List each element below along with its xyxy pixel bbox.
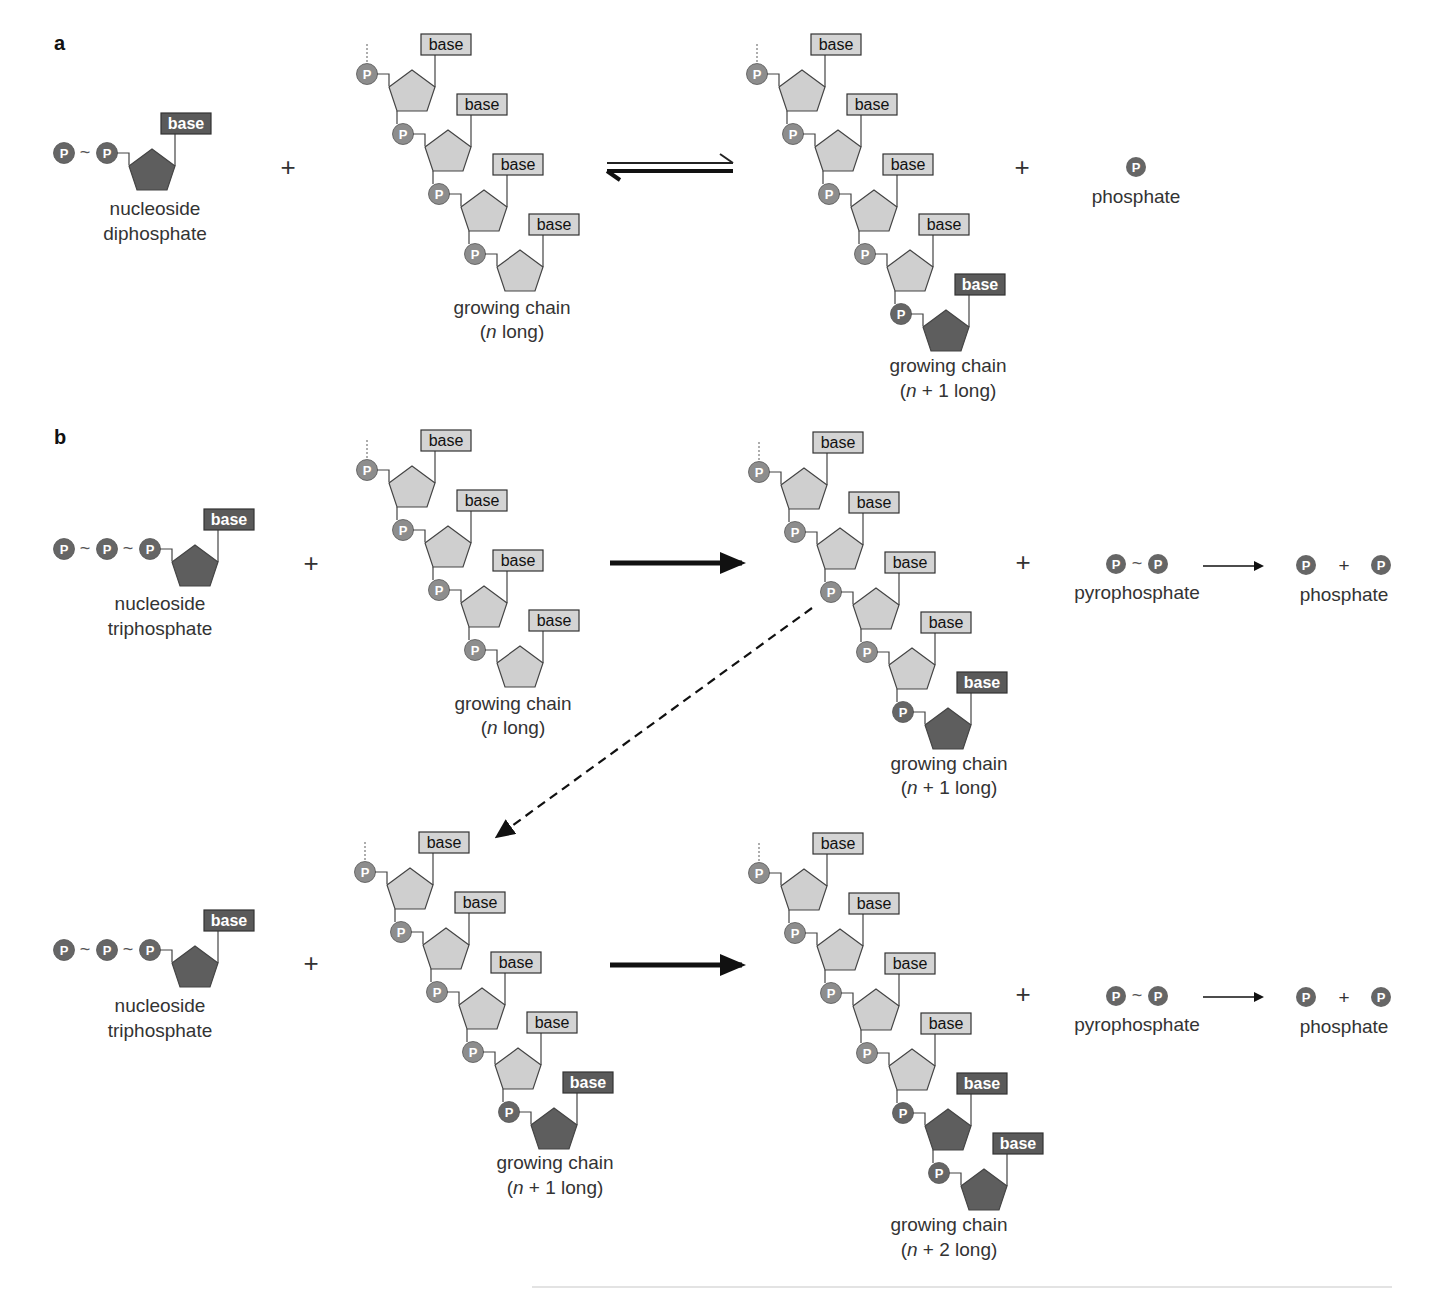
free-nucleotide-b2_ntp: P~P~Pbase	[54, 910, 255, 987]
svg-text:~: ~	[80, 142, 91, 162]
free-nucleotides: P~PbaseP~P~PbaseP~P~Pbase	[54, 113, 255, 987]
svg-text:P: P	[899, 705, 908, 720]
svg-text:P: P	[435, 187, 444, 202]
svg-text:P: P	[1112, 989, 1121, 1004]
svg-text:phosphate: phosphate	[1092, 186, 1181, 207]
svg-text:P: P	[789, 127, 798, 142]
svg-text:P: P	[60, 542, 69, 557]
base-new-label: base	[957, 672, 1007, 693]
svg-text:base: base	[501, 552, 536, 569]
svg-text:P: P	[863, 645, 872, 660]
base-new-label: base	[161, 113, 211, 134]
phosphate-icon: P	[140, 940, 161, 961]
phosphate-icon: P	[429, 580, 450, 601]
phosphate-icon: P	[54, 940, 75, 961]
svg-text:base: base	[819, 36, 854, 53]
sugar-icon	[853, 989, 899, 1030]
phosphate-icon: P	[391, 922, 412, 943]
base-label: base	[919, 214, 969, 235]
svg-text:P: P	[399, 523, 408, 538]
svg-text:pyrophosphate: pyrophosphate	[1074, 1014, 1200, 1035]
svg-text:P: P	[755, 465, 764, 480]
svg-text:P: P	[433, 985, 442, 1000]
svg-text:P: P	[146, 542, 155, 557]
sugar-icon	[851, 190, 897, 231]
svg-text:(n long): (n long)	[481, 717, 545, 738]
phosphate-icon: P	[929, 1163, 950, 1184]
svg-text:base: base	[429, 36, 464, 53]
svg-text:~: ~	[123, 538, 134, 558]
base-label: base	[811, 34, 861, 55]
phosphate-icon: P	[857, 642, 878, 663]
panel-label-b: b	[54, 426, 66, 448]
phosphate-icon: P	[357, 460, 378, 481]
svg-text:growing chain: growing chain	[889, 355, 1006, 376]
sugar-icon	[497, 250, 543, 291]
plus-sign: +	[280, 152, 295, 182]
svg-text:triphosphate: triphosphate	[108, 1020, 213, 1041]
phosphate-icon: P	[54, 539, 75, 560]
svg-text:phosphate: phosphate	[1300, 584, 1389, 605]
phosphate-icon: P	[749, 863, 770, 884]
sugar-icon	[461, 586, 507, 627]
phosphate-icon: P	[463, 1042, 484, 1063]
chain-n2-label: growing chain (n + 2 long)	[890, 1214, 1007, 1260]
phosphate-products: P + P phosphate	[1296, 555, 1391, 605]
sugar-icon	[389, 70, 435, 111]
svg-text:P: P	[827, 986, 836, 1001]
svg-text:base: base	[821, 835, 856, 852]
svg-text:base: base	[891, 156, 926, 173]
svg-text:P: P	[1154, 557, 1163, 572]
phosphate-icon: P	[54, 143, 75, 164]
svg-text:growing chain: growing chain	[890, 1214, 1007, 1235]
svg-text:P: P	[471, 643, 480, 658]
chain-n-label: growing chain (n long)	[453, 297, 570, 342]
base-label: base	[527, 1012, 577, 1033]
sugar-icon	[497, 646, 543, 687]
phosphate-icon: P	[893, 702, 914, 723]
svg-text:base: base	[1000, 1135, 1037, 1152]
phosphate-icon: P	[855, 244, 876, 265]
growing-chain-a_chain_n: PbasePbasePbasePbase	[357, 34, 580, 291]
svg-text:~: ~	[80, 939, 91, 959]
sugar-icon	[889, 648, 935, 689]
phosphate-icon: P	[355, 862, 376, 883]
phosphate-icon: P	[783, 124, 804, 145]
base-label: base	[849, 893, 899, 914]
sugar-icon	[495, 1048, 541, 1089]
svg-text:P: P	[1302, 558, 1311, 573]
svg-text:+: +	[1338, 987, 1349, 1008]
phosphate-icon: P	[819, 184, 840, 205]
svg-text:nucleoside: nucleoside	[115, 593, 206, 614]
phosphate-product: P phosphate	[1092, 157, 1181, 207]
svg-text:~: ~	[80, 538, 91, 558]
sugar-icon	[425, 526, 471, 567]
phosphate-icon: P	[393, 124, 414, 145]
base-label: base	[885, 552, 935, 573]
svg-text:base: base	[855, 96, 890, 113]
svg-text:base: base	[463, 894, 498, 911]
phosphate-products: P + P phosphate	[1296, 987, 1391, 1037]
svg-text:P: P	[469, 1045, 478, 1060]
svg-text:base: base	[821, 434, 856, 451]
base-label: base	[491, 952, 541, 973]
sugar-icon	[459, 988, 505, 1029]
sugar-dark-icon	[531, 1108, 577, 1149]
svg-text:P: P	[1132, 160, 1141, 175]
svg-text:+: +	[1338, 555, 1349, 576]
sugar-icon	[889, 1049, 935, 1090]
base-new-label: base	[204, 509, 254, 530]
svg-text:P: P	[505, 1105, 514, 1120]
phosphate-icon: P	[465, 640, 486, 661]
svg-text:nucleoside: nucleoside	[110, 198, 201, 219]
base-label: base	[813, 833, 863, 854]
base-new-label: base	[204, 910, 254, 931]
svg-text:base: base	[964, 1075, 1001, 1092]
phosphate-icon: P	[499, 1102, 520, 1123]
phosphate-icon: P	[97, 940, 118, 961]
growing-chain-a_chain_n1: PbasePbasePbasePbasePbase	[747, 34, 1006, 351]
chain-n1-label: growing chain (n + 1 long)	[889, 355, 1006, 401]
panel-label-a: a	[54, 32, 66, 54]
growing-chain-b2_chain_n2: PbasePbasePbasePbasePbasePbase	[749, 833, 1044, 1210]
phosphate-icon: P	[357, 64, 378, 85]
